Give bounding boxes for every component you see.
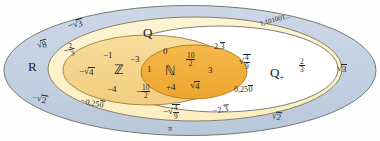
fraction-numerator: 4 — [173, 104, 179, 112]
element-sqrt-8: √8 — [36, 38, 49, 50]
fraction-numerator: 4 — [244, 54, 250, 62]
element-sqrt-4: √4 — [190, 80, 200, 90]
fraction-numerator: 10 — [186, 52, 195, 60]
set-label-Q-plus: Q+ — [270, 66, 284, 79]
neg-sqrt4-radicand: 4 — [88, 67, 95, 77]
element-neg-23-repeating: −2,3 — [213, 104, 229, 115]
fraction-denominator: 2 — [141, 91, 150, 100]
radical-neg-sqrt4: √4 — [84, 66, 94, 76]
fraction-four-ninths: 49 — [244, 54, 250, 70]
fraction-two-thirds-positive: 23 — [299, 58, 305, 74]
element-pi: π — [168, 125, 172, 133]
fraction-numerator: 10 — [141, 84, 150, 92]
element-neg-3: −3 — [130, 55, 140, 64]
fraction-denominator: 9 — [173, 112, 179, 121]
radical-neg-sqrt-4-9: √49 — [168, 103, 180, 120]
element-0250-repeating: 0,250 — [234, 85, 253, 94]
sqrt2-radicand: 2 — [275, 111, 283, 122]
element-1: 1 — [147, 65, 152, 74]
venn-diagram-number-sets: R Q Q+ ℤ ℕ √8 −√2 −√3 √3 √2 π 1,101001..… — [0, 0, 380, 141]
set-label-Q-plus-text: Q — [270, 65, 279, 80]
element-two-thirds: 23 — [299, 58, 305, 74]
dec-23-repeat: 3 — [220, 42, 225, 51]
element-sqrt-2: √2 — [271, 110, 283, 121]
fraction-denominator: 2 — [186, 59, 195, 68]
set-label-R: R — [28, 60, 37, 73]
set-label-N: ℕ — [165, 64, 175, 77]
element-neg-sqrt-four-ninths: −√49 — [163, 103, 180, 120]
radical-neg-sqrt2: √2 — [36, 93, 48, 105]
sqrt3-radicand: 3 — [341, 64, 348, 74]
element-neg-1: −1 — [103, 51, 113, 60]
element-sqrt-3: √3 — [337, 63, 347, 73]
venn-ellipses-canvas — [0, 0, 380, 141]
element-ten-halves: 102 — [186, 52, 195, 68]
set-label-plus-subscript: + — [279, 73, 284, 82]
radical-sqrt-4-9: √49 — [239, 53, 251, 70]
fraction-denominator: 9 — [244, 62, 250, 71]
set-label-Q: Q — [143, 26, 152, 39]
element-neg-4: −4 — [107, 85, 117, 94]
element-plus-4: +4 — [166, 83, 176, 92]
fraction-numerator: 2 — [299, 58, 305, 66]
sqrt4-radicand: 4 — [194, 81, 201, 91]
element-3: 3 — [208, 66, 213, 75]
neg-sqrt-4-9-radicand: 49 — [172, 104, 180, 121]
element-neg-ten-halves: −102 — [136, 84, 150, 100]
fraction-denominator: 3 — [299, 65, 305, 74]
radical-sqrt4: √4 — [190, 80, 200, 90]
neg-23-repeat: 3 — [223, 104, 229, 113]
fraction-ten-halves: 102 — [186, 52, 195, 68]
element-sqrt-four-ninths: √49 — [239, 53, 251, 70]
dec-0250-head: 0,25 — [234, 85, 248, 94]
set-label-Z: ℤ — [114, 63, 124, 76]
radical-sqrt2: √2 — [271, 110, 283, 121]
fraction-four-ninths: 49 — [173, 104, 179, 120]
radical-sqrt8: √8 — [36, 38, 49, 50]
element-0: 0 — [163, 47, 168, 56]
radical-sqrt3: √3 — [337, 63, 347, 73]
element-23-repeating: 2,3 — [214, 42, 225, 51]
dec-0250-repeat: 0 — [248, 85, 253, 94]
sqrt-4-9-radicand: 49 — [243, 54, 251, 71]
element-neg-sqrt-4: −√4 — [79, 66, 95, 76]
fraction-ten-halves-negative: 102 — [141, 84, 150, 100]
